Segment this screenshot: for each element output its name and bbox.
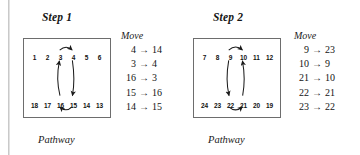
arrow-top-3-to-4 — [60, 47, 72, 50]
pathway-box-1: 1 2 3 4 5 6 18 17 16 15 14 13 — [23, 38, 111, 118]
move-item: 3 → 4 — [119, 57, 162, 71]
pathway-cell: 18 — [28, 102, 41, 109]
step-title-2: Step 2 — [213, 11, 243, 23]
pathway-top-row-1: 1 2 3 4 5 6 — [24, 54, 110, 61]
move-from: 14 — [119, 100, 136, 114]
move-from: 16 — [119, 71, 136, 85]
pathway-cell: 24 — [198, 102, 211, 109]
pathway-cell: 2 — [41, 54, 54, 61]
pathway-cell: 17 — [41, 102, 54, 109]
move-item: 14 → 15 — [119, 100, 162, 114]
move-item: 16 → 3 — [119, 71, 162, 85]
pathway-bottom-row-2: 24 23 22 21 20 19 — [194, 102, 280, 109]
move-list-2: 9 → 23 10 → 9 21 → 10 22 → 21 — [292, 43, 335, 114]
move-item: 15 → 16 — [119, 86, 162, 100]
step-panel-2: Step 2 7 8 9 10 11 12 24 23 22 21 20 19 — [186, 0, 360, 155]
move-from: 22 — [292, 86, 309, 100]
pathway-cell: 21 — [237, 102, 250, 109]
pathway-bottom-row-1: 18 17 16 15 14 13 — [24, 102, 110, 109]
move-item: 4 → 14 — [119, 43, 162, 57]
move-list-1: 4 → 14 3 → 4 16 → 3 15 → 16 — [119, 43, 162, 114]
pathway-cell: 15 — [67, 102, 80, 109]
pathway-cell: 8 — [211, 54, 224, 61]
pathway-cell: 13 — [93, 102, 106, 109]
pathway-cell: 20 — [250, 102, 263, 109]
pathway-cell: 23 — [211, 102, 224, 109]
pathway-cell: 10 — [237, 54, 250, 61]
right-arrow-icon: → — [136, 57, 152, 71]
pathway-cell: 14 — [80, 102, 93, 109]
move-heading-1: Move — [121, 30, 162, 41]
move-item: 23 → 22 — [292, 100, 335, 114]
move-to: 21 — [325, 86, 335, 100]
pathway-cell: 12 — [263, 54, 276, 61]
pathway-cell: 3 — [54, 54, 67, 61]
pathway-figure: Step 1 1 2 3 4 5 6 18 17 16 15 14 13 — [0, 0, 360, 155]
move-item: 21 → 10 — [292, 71, 335, 85]
move-from: 3 — [119, 57, 136, 71]
pathway-cell: 6 — [93, 54, 106, 61]
move-to: 15 — [152, 100, 162, 114]
arrow-up-16-to-3 — [58, 61, 60, 96]
move-to: 9 — [325, 57, 330, 71]
right-arrow-icon: → — [136, 71, 152, 85]
move-heading-2: Move — [294, 30, 335, 41]
move-to: 23 — [325, 43, 335, 57]
pathway-cell: 4 — [67, 54, 80, 61]
pathway-caption-1: Pathway — [38, 134, 75, 145]
right-arrow-icon: → — [309, 43, 325, 57]
move-list-block-1: Move 4 → 14 3 → 4 16 → 3 15 — [119, 30, 162, 114]
pathway-top-row-2: 7 8 9 10 11 12 — [194, 54, 280, 61]
move-item: 22 → 21 — [292, 86, 335, 100]
pathway-cell: 1 — [28, 54, 41, 61]
pathway-cell: 7 — [198, 54, 211, 61]
move-from: 21 — [292, 71, 309, 85]
move-to: 14 — [152, 43, 162, 57]
move-to: 22 — [325, 100, 335, 114]
pathway-caption-2: Pathway — [208, 134, 245, 145]
move-list-block-2: Move 9 → 23 10 → 9 21 → 10 22 — [292, 30, 335, 114]
pathway-cell: 9 — [224, 54, 237, 61]
right-arrow-icon: → — [136, 100, 152, 114]
pathway-cell: 22 — [224, 102, 237, 109]
step-title-1: Step 1 — [42, 11, 72, 23]
right-arrow-icon: → — [309, 71, 325, 85]
pathway-cell: 5 — [80, 54, 93, 61]
pathway-cell: 16 — [54, 102, 67, 109]
move-from: 9 — [292, 43, 309, 57]
pathway-cell: 11 — [250, 54, 263, 61]
arrow-top-9-to-10 — [229, 47, 243, 50]
arrow-up-21-to-10 — [242, 61, 244, 96]
move-item: 9 → 23 — [292, 43, 335, 57]
arrow-down-4-to-15 — [72, 60, 73, 95]
move-from: 15 — [119, 86, 136, 100]
right-arrow-icon: → — [309, 100, 325, 114]
move-from: 23 — [292, 100, 309, 114]
move-to: 4 — [152, 57, 157, 71]
arrow-down-9-to-22 — [227, 60, 229, 95]
right-arrow-icon: → — [309, 86, 325, 100]
move-to: 3 — [152, 71, 157, 85]
move-to: 16 — [152, 86, 162, 100]
right-arrow-icon: → — [309, 57, 325, 71]
right-arrow-icon: → — [136, 86, 152, 100]
pathway-cell: 19 — [263, 102, 276, 109]
right-arrow-icon: → — [136, 43, 152, 57]
move-from: 4 — [119, 43, 136, 57]
move-from: 10 — [292, 57, 309, 71]
pathway-box-2: 7 8 9 10 11 12 24 23 22 21 20 19 — [193, 38, 281, 118]
step-panel-1: Step 1 1 2 3 4 5 6 18 17 16 15 14 13 — [14, 0, 184, 155]
move-to: 10 — [325, 71, 335, 85]
move-item: 10 → 9 — [292, 57, 335, 71]
